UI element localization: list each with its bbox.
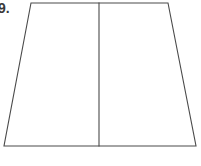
geometry-figure-container: 9. — [0, 0, 201, 166]
trapezoid-fill — [4, 3, 196, 146]
trapezoid-diagram-svg — [0, 0, 201, 166]
